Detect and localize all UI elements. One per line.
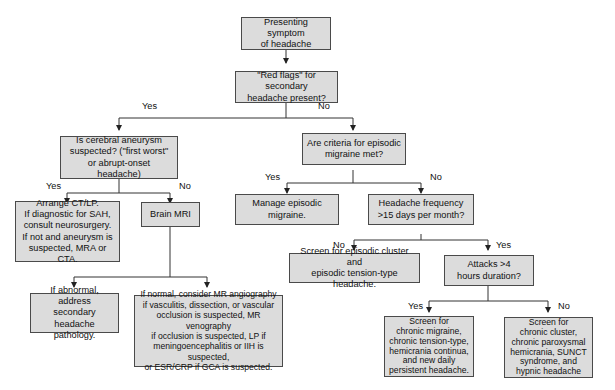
node-manage-episodic-migraine: Manage episodic migraine.: [235, 194, 339, 225]
node-arrange-ct-lp: Arrange CT/LP. If diagnostic for SAH, co…: [15, 201, 120, 262]
flowchart-canvas: Presenting symptom of headache "Red flag…: [0, 0, 615, 390]
node-presenting-symptom: Presenting symptom of headache: [241, 17, 331, 50]
edge-label-frequency-yes: Yes: [496, 240, 511, 250]
edge-label-aneurysm-no: No: [179, 181, 191, 191]
node-headache-frequency: Headache frequency >15 days per month?: [368, 194, 474, 225]
node-normal-mri: If normal, consider MR angiography if va…: [134, 295, 283, 367]
node-attacks-duration: Attacks >4 hours duration?: [444, 255, 534, 286]
node-screen-chronic-migraine: Screen for chronic migraine, chronic ten…: [384, 316, 474, 377]
edge-label-episodic-no: No: [430, 172, 442, 182]
node-cerebral-aneurysm: Is cerebral aneurysm suspected? ("first …: [60, 136, 178, 179]
edge-label-attacks-yes: Yes: [408, 301, 423, 311]
node-screen-chronic-cluster: Screen for chronic cluster, chronic paro…: [504, 317, 593, 378]
node-abnormal-mri: If abnormal, address secondary headache …: [30, 293, 119, 333]
edge-label-aneurysm-yes: Yes: [46, 181, 61, 191]
node-screen-episodic-cluster: Screen for episodic cluster and episodic…: [289, 253, 420, 283]
edge-label-attacks-no: No: [558, 301, 570, 311]
edge-label-episodic-yes: Yes: [265, 172, 280, 182]
edge-label-red-flags-yes: Yes: [142, 101, 157, 111]
node-episodic-migraine-criteria: Are criteria for episodic migraine met?: [302, 133, 406, 165]
edge-label-red-flags-no: No: [318, 101, 330, 111]
node-red-flags: "Red flags" for secondary headache prese…: [235, 71, 338, 103]
node-brain-mri: Brain MRI: [141, 202, 200, 227]
